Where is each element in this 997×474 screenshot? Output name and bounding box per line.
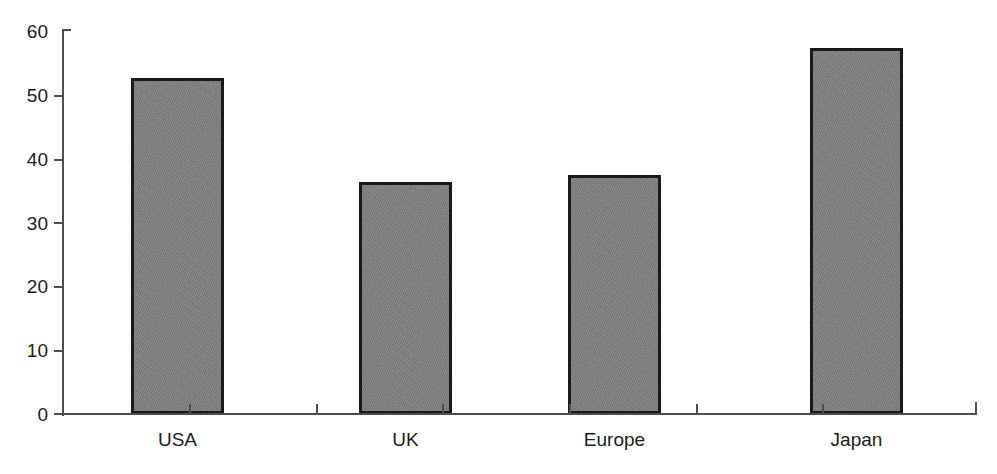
x-axis-end-tick (975, 402, 977, 415)
x-axis-tick-4 (569, 404, 571, 415)
bar-japan[interactable] (810, 48, 903, 414)
y-tick-label-60: 60 (4, 22, 48, 41)
y-axis-tick-labels: 60 50 40 30 20 10 0 (0, 0, 48, 474)
y-tick-label-10: 10 (4, 341, 48, 360)
y-tick-label-20: 20 (4, 277, 48, 296)
category-label-europe: Europe (568, 430, 661, 449)
x-axis-tick-1 (189, 404, 191, 415)
bar-usa[interactable] (131, 78, 224, 414)
x-axis-tick-3 (442, 404, 444, 415)
y-tick-label-30: 30 (4, 214, 48, 233)
x-axis-tick-6 (822, 404, 824, 415)
bar-chart-figure: 60 50 40 30 20 10 0 USA UK Europe Japan (0, 0, 997, 474)
x-axis-line (62, 413, 977, 415)
y-tick-label-50: 50 (4, 86, 48, 105)
bar-europe[interactable] (568, 175, 661, 414)
x-axis-tick-2 (316, 404, 318, 415)
category-label-japan: Japan (810, 430, 903, 449)
category-label-usa: USA (131, 430, 224, 449)
bar-uk[interactable] (359, 182, 452, 414)
y-tick-label-40: 40 (4, 150, 48, 169)
x-axis-tick-5 (696, 404, 698, 415)
plot-area (62, 31, 975, 414)
y-tick-label-0: 0 (4, 405, 48, 424)
category-label-uk: UK (359, 430, 452, 449)
